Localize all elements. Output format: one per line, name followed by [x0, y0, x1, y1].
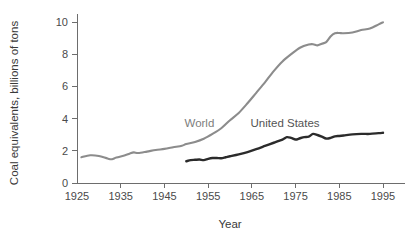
x-axis-title: Year [218, 218, 241, 230]
annotation-world: World [184, 117, 214, 129]
series-line-world [81, 22, 383, 159]
y-axis: 0246810 [56, 14, 77, 189]
series-line-united-states [186, 133, 383, 161]
x-tick-label: 1965 [240, 190, 264, 202]
y-tick-label: 6 [62, 80, 68, 92]
x-tick-label: 1975 [283, 190, 307, 202]
chart-container: 0246810 19251935194519551965197519851995… [0, 0, 419, 235]
series-annotations: WorldUnited States [184, 117, 319, 129]
x-tick-label: 1955 [196, 190, 220, 202]
y-tick-label: 10 [56, 16, 68, 28]
x-axis: 19251935194519551965197519851995 [65, 183, 405, 202]
x-tick-label: 1925 [65, 190, 89, 202]
y-tick-label: 4 [62, 113, 68, 125]
y-axis-title: Coal equivalents, billions of tons [8, 21, 20, 186]
x-tick-label: 1995 [371, 190, 395, 202]
y-tick-label: 2 [62, 145, 68, 157]
annotation-united-states: United States [251, 117, 320, 129]
x-tick-label: 1945 [152, 190, 176, 202]
line-chart: 0246810 19251935194519551965197519851995… [0, 0, 419, 235]
x-tick-label: 1935 [108, 190, 132, 202]
x-tick-label: 1985 [327, 190, 351, 202]
y-tick-label: 0 [62, 177, 68, 189]
series-lines [81, 22, 383, 161]
y-tick-label: 8 [62, 48, 68, 60]
